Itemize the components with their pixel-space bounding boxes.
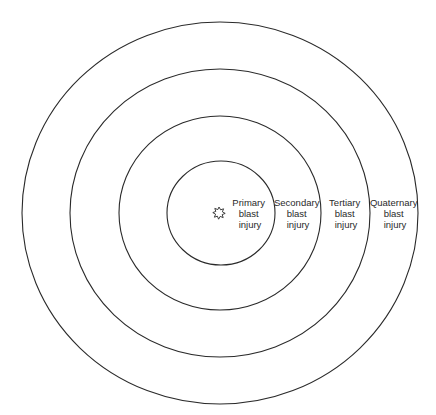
label-primary: Primary blast injury xyxy=(232,197,267,230)
label-quaternary: Quaternary blast injury xyxy=(370,197,420,230)
label-tertiary: Tertiary blast injury xyxy=(329,197,363,230)
ring-quaternary xyxy=(22,22,418,404)
label-secondary: Secondary blast injury xyxy=(274,197,322,230)
explosion-icon xyxy=(213,207,225,219)
ring-tertiary xyxy=(70,69,370,357)
blast-injury-diagram: Primary blast injury Secondary blast inj… xyxy=(0,0,436,415)
